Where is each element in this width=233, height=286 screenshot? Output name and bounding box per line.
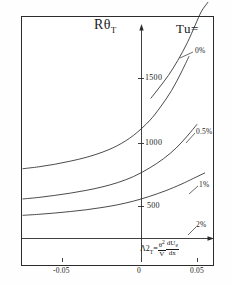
y-axis-title: RθT — [94, 18, 116, 35]
leader-line-2 — [189, 186, 198, 194]
curve-label-0pct: 0% — [195, 47, 205, 55]
curve-label-2pct: 2% — [196, 221, 206, 229]
ytick-label-1000: 1000 — [145, 139, 162, 147]
curve-label-0p5pct: 0.5% — [196, 128, 212, 136]
formula-denominator-dx: dx — [166, 250, 179, 257]
y-axis-title-subscript: T — [111, 25, 117, 35]
xtick-label-negative: -0.05 — [53, 267, 70, 275]
y-axis-title-main: Rθ — [94, 17, 111, 32]
xtick-label-positive: 0.05 — [190, 267, 204, 275]
leader-line-1 — [186, 133, 195, 143]
curve-05pct — [23, 57, 189, 169]
figure-container: RθT Tu= 0% 0.5% 1% 2% 1500 1000 500 -0.0… — [0, 0, 233, 286]
formula-fraction-theta-over-nu: θ2V — [158, 240, 166, 258]
formula-denominator-nu: V — [158, 251, 166, 258]
legend-title: Tu= — [176, 22, 199, 35]
formula-lambda: Λ2T — [140, 244, 153, 253]
x-axis-title-formula: Λ2T=θ2VdUedx — [140, 240, 179, 258]
ytick-label-500: 500 — [147, 202, 160, 210]
curve-1pct — [23, 125, 197, 199]
curve-label-1pct: 1% — [199, 181, 209, 189]
chart-plot-area — [0, 0, 233, 286]
curve-2pct — [23, 173, 205, 215]
xtick-label-zero: 0 — [137, 267, 141, 275]
leader-line-3 — [188, 227, 196, 235]
x-axis-arrowhead — [208, 236, 215, 240]
formula-fraction-due-over-dx: dUedx — [166, 240, 179, 258]
y-axis-arrowhead — [139, 24, 143, 31]
ytick-label-1500: 1500 — [145, 74, 162, 82]
